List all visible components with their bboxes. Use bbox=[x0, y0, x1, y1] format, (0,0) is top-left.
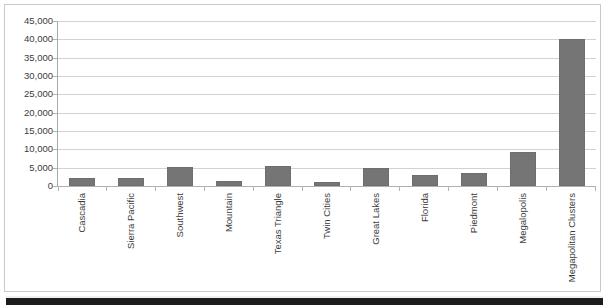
x-axis-tick-cell bbox=[107, 186, 156, 191]
bar-slot bbox=[254, 21, 303, 186]
x-axis-label-cell: Texas Triangle bbox=[254, 193, 303, 289]
bar-series bbox=[58, 21, 596, 186]
x-axis-tick-cell bbox=[351, 186, 400, 191]
x-axis-tick-label: Megapolitan Clusters bbox=[567, 193, 577, 282]
x-axis-tick-label: Twin Cities bbox=[322, 193, 332, 239]
x-axis-label-cell: Sierra Pacific bbox=[107, 193, 156, 289]
x-axis-tick-label: Cascadia bbox=[77, 193, 87, 233]
x-axis-label-cell: Southwest bbox=[156, 193, 205, 289]
y-axis-tick-label: 15,000 bbox=[5, 126, 53, 136]
bar-slot bbox=[400, 21, 449, 186]
bar bbox=[559, 39, 585, 186]
x-axis-label-cell: Megalopolis bbox=[498, 193, 547, 289]
x-axis-tick-cell bbox=[547, 186, 596, 191]
x-axis-tick-mark bbox=[595, 186, 596, 191]
x-axis-label-cell: Megapolitan Clusters bbox=[547, 193, 596, 289]
bar bbox=[510, 152, 536, 186]
y-axis-tick-label: 20,000 bbox=[5, 108, 53, 118]
x-axis-label-cell: Twin Cities bbox=[303, 193, 352, 289]
x-axis-label-cell: Mountain bbox=[205, 193, 254, 289]
bar-slot bbox=[351, 21, 400, 186]
x-axis-tick-cell bbox=[449, 186, 498, 191]
bar-slot bbox=[156, 21, 205, 186]
bar bbox=[69, 178, 95, 186]
bar-chart-figure: 45,00040,00035,00030,00025,00020,00015,0… bbox=[0, 0, 607, 308]
x-axis-label-cell: Florida bbox=[400, 193, 449, 289]
bar-slot bbox=[449, 21, 498, 186]
y-axis-tick-label: 25,000 bbox=[5, 89, 53, 99]
bar-slot bbox=[303, 21, 352, 186]
x-axis-tick-label: Texas Triangle bbox=[273, 193, 283, 254]
x-axis-tick-cell bbox=[303, 186, 352, 191]
bar bbox=[461, 173, 487, 186]
bar bbox=[412, 175, 438, 186]
x-axis-tick-cell bbox=[58, 186, 107, 191]
bar bbox=[265, 166, 291, 186]
y-axis-tick-label: 5,000 bbox=[5, 163, 53, 173]
x-axis-label-cell: Cascadia bbox=[58, 193, 107, 289]
x-axis-label-cell: Piedmont bbox=[449, 193, 498, 289]
bar bbox=[363, 168, 389, 186]
plot-area bbox=[58, 21, 596, 186]
x-axis-label-cell: Great Lakes bbox=[351, 193, 400, 289]
x-axis-tick-label: Southwest bbox=[175, 193, 185, 237]
y-axis-tick-label: 35,000 bbox=[5, 53, 53, 63]
x-axis-labels: CascadiaSierra PacificSouthwestMountainT… bbox=[58, 193, 596, 289]
x-axis-tick-cell bbox=[400, 186, 449, 191]
bar-slot bbox=[58, 21, 107, 186]
bar bbox=[118, 178, 144, 186]
bar bbox=[167, 167, 193, 186]
x-axis-tick-cell bbox=[205, 186, 254, 191]
x-axis-tick-label: Sierra Pacific bbox=[126, 193, 136, 249]
bar-slot bbox=[107, 21, 156, 186]
x-axis-tick-marks bbox=[58, 186, 596, 191]
bar-slot bbox=[547, 21, 596, 186]
x-axis-tick-label: Mountain bbox=[224, 193, 234, 232]
y-axis-tick-label: 30,000 bbox=[5, 71, 53, 81]
chart-frame: 45,00040,00035,00030,00025,00020,00015,0… bbox=[4, 4, 601, 292]
x-axis-tick-mark bbox=[58, 186, 59, 191]
y-axis-tick-label: 0 bbox=[5, 181, 53, 191]
y-axis-labels: 45,00040,00035,00030,00025,00020,00015,0… bbox=[5, 21, 53, 186]
x-axis-tick-cell bbox=[254, 186, 303, 191]
y-axis-tick-label: 45,000 bbox=[5, 16, 53, 26]
x-axis-tick-cell bbox=[156, 186, 205, 191]
y-axis-tick-label: 40,000 bbox=[5, 34, 53, 44]
y-axis-tick-label: 10,000 bbox=[5, 144, 53, 154]
x-axis-tick-label: Great Lakes bbox=[371, 193, 381, 245]
x-axis-tick-cell bbox=[498, 186, 547, 191]
bar-slot bbox=[498, 21, 547, 186]
x-axis-tick-label: Megalopolis bbox=[518, 193, 528, 244]
bar-slot bbox=[205, 21, 254, 186]
x-axis-tick-label: Florida bbox=[420, 193, 430, 222]
x-axis-tick-label: Piedmont bbox=[469, 193, 479, 233]
footer-strip bbox=[6, 298, 603, 305]
